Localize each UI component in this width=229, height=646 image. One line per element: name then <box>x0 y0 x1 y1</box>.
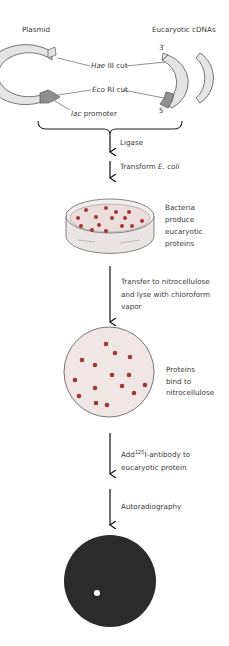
plasmid-ring <box>0 45 60 105</box>
three-prime-label: 3′ <box>159 42 165 53</box>
transfer-label: Transfer to nitrocelluloseand lyse with … <box>121 276 210 314</box>
cloning-diagram <box>0 0 229 646</box>
hae-cut-label: Hae III cut <box>91 60 128 71</box>
nitrocellulose-filter <box>64 327 154 417</box>
add-antibody-label: Add125I-antibody to eucaryotic protein <box>121 446 190 474</box>
ligase-label: Ligase <box>120 137 143 148</box>
eco-cut-label: Eco RI cut <box>92 84 128 95</box>
positive-spot <box>94 590 100 596</box>
cdna-fragment-2 <box>196 53 213 103</box>
cdna-fragment-1 <box>160 53 188 108</box>
cdna-label: Eucaryotic cDNAs <box>152 24 216 35</box>
bacteria-label: Bacteriaproduce eucaryoticproteins <box>165 202 203 250</box>
proteins-bind-label: Proteinsbind tonitrocellulose <box>166 364 214 399</box>
lac-promoter-label: lac promoter <box>71 108 117 119</box>
autoradiograph <box>64 535 156 627</box>
ligation-brace <box>38 121 182 135</box>
autoradiography-label: Autoradiography <box>121 501 181 512</box>
petri-dish <box>66 199 154 253</box>
plasmid-label: Plasmid <box>22 24 50 35</box>
five-prime-label: 5′ <box>159 105 165 116</box>
transform-label: Transform E. coli <box>120 161 180 172</box>
lac-promoter-segment <box>40 90 60 103</box>
